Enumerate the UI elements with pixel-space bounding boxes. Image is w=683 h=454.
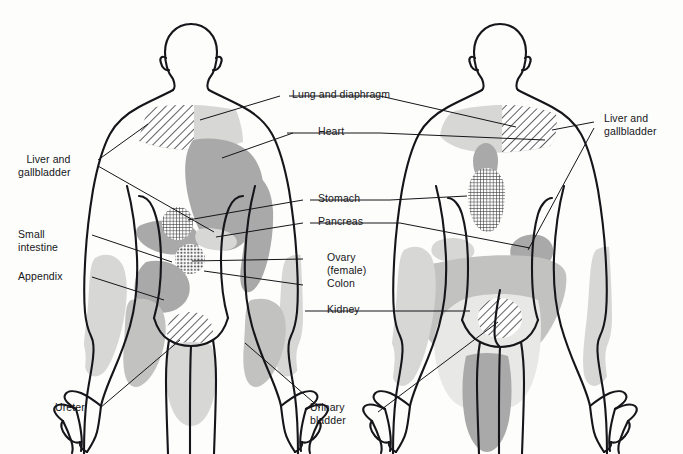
referred-pain-diagram: Lung and diaphragm Heart Stomach Pancrea…	[0, 0, 683, 454]
label-appendix: Appendix	[18, 270, 63, 283]
label-kidney: Kidney	[327, 303, 360, 316]
label-pancreas: Pancreas	[318, 215, 363, 228]
posterior-body-outline	[363, 24, 637, 454]
label-ureter: Ureter	[55, 401, 85, 414]
label-small-intestine: Small intestine	[18, 228, 58, 253]
anterior-referral-zones	[84, 105, 319, 426]
label-colon: Colon	[327, 277, 355, 290]
label-urinary-bladder: Urinary bladder	[310, 401, 346, 426]
label-lung-and-diaphragm: Lung and diaphragm	[292, 88, 390, 101]
label-liver-and-gallbladder-left: Liver and gallbladder	[18, 153, 70, 178]
label-ovary-female: Ovary (female)	[327, 251, 366, 276]
label-heart: Heart	[318, 125, 344, 138]
label-liver-and-gallbladder-right: Liver and gallbladder	[604, 112, 656, 137]
label-stomach: Stomach	[318, 192, 360, 205]
posterior-referral-zones	[391, 105, 628, 452]
